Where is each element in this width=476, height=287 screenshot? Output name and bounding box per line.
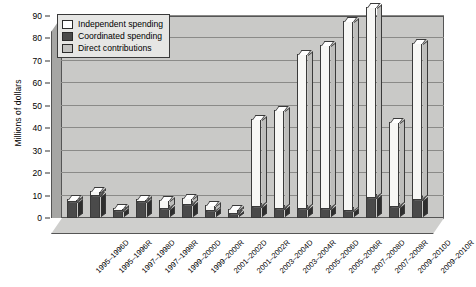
legend-swatch-coordinated [62, 32, 73, 41]
y-tick-label-30: 30 [8, 146, 42, 156]
y-tick-label-60: 60 [8, 78, 42, 88]
bar-segment-coordinated [90, 196, 100, 218]
bar-segment-independent [228, 209, 238, 213]
y-tick-mark-10 [45, 195, 50, 196]
legend: Independent spending Coordinated spendin… [57, 14, 170, 58]
legend-item-independent: Independent spending [62, 18, 163, 30]
bar-segment-independent-side-face [331, 43, 336, 208]
legend-label-independent: Independent spending [78, 19, 163, 29]
bar-segment-independent [67, 199, 77, 202]
bar-segment-coordinated [412, 200, 422, 218]
bar-segment-independent-side-face [354, 18, 359, 210]
bar-segment-coordinated [343, 211, 353, 218]
gridline-70 [61, 60, 444, 61]
bar-segment-independent [343, 21, 353, 212]
bar-group [90, 191, 100, 218]
y-tick-label-0: 0 [8, 213, 42, 223]
bar-group [136, 199, 146, 218]
legend-label-direct: Direct contributions [78, 43, 152, 53]
gridline-50 [61, 105, 444, 106]
bar-segment-independent [113, 208, 123, 211]
y-tick-label-40: 40 [8, 123, 42, 133]
bar-segment-independent [297, 54, 307, 209]
legend-item-direct: Direct contributions [62, 42, 163, 54]
y-tick-mark-20 [45, 173, 50, 174]
y-tick-mark-80 [45, 38, 50, 39]
bar-segment-independent [366, 7, 376, 198]
y-tick-mark-0 [45, 218, 50, 219]
bar-group [228, 209, 238, 218]
y-tick-mark-90 [45, 16, 50, 17]
bar-segment-independent [205, 205, 215, 212]
bar-segment-coordinated-side-face [101, 193, 106, 217]
bar-group [274, 110, 284, 218]
y-tick-label-50: 50 [8, 101, 42, 111]
bar-segment-independent [136, 199, 146, 202]
bar-segment-independent-side-face [377, 4, 382, 196]
bar-segment-independent [90, 191, 100, 195]
bar-segment-coordinated [136, 202, 146, 218]
y-tick-label-70: 70 [8, 56, 42, 66]
gridline-60 [61, 82, 444, 83]
bar-segment-coordinated [274, 209, 284, 218]
y-tick-mark-40 [45, 128, 50, 129]
bar-segment-independent-side-face [423, 40, 428, 199]
bar-segment-coordinated [320, 209, 330, 218]
bar-segment-coordinated-side-face [377, 195, 382, 217]
bar-segment-coordinated [228, 214, 238, 218]
bar-group [159, 200, 169, 218]
bar-group [389, 122, 399, 219]
bar-group [205, 205, 215, 218]
bar-group [67, 199, 77, 218]
bar-segment-coordinated [159, 209, 169, 218]
bar-segment-coordinated [205, 211, 215, 218]
bar-segment-independent [320, 45, 330, 209]
bar-group [412, 43, 422, 218]
bar-group [343, 21, 353, 219]
bar-segment-coordinated [389, 207, 399, 218]
bar-segment-coordinated [251, 207, 261, 218]
bar-group [113, 208, 123, 218]
bar-segment-coordinated [113, 211, 123, 218]
bar-segment-coordinated [67, 202, 77, 218]
bar-segment-independent-side-face [400, 119, 405, 206]
y-tick-label-10: 10 [8, 191, 42, 201]
bar-segment-independent [159, 200, 169, 209]
bar-group [320, 45, 330, 218]
bar-segment-independent [251, 119, 261, 207]
bar-group [182, 198, 192, 218]
y-tick-mark-70 [45, 60, 50, 61]
bar-segment-independent-side-face [308, 52, 313, 208]
bar-segment-independent [182, 198, 192, 205]
bar-segment-independent [389, 122, 399, 207]
legend-swatch-direct [62, 44, 73, 53]
legend-label-coordinated: Coordinated spending [78, 31, 162, 41]
bar-segment-coordinated [366, 198, 376, 218]
bar-group [297, 54, 307, 218]
legend-swatch-independent [62, 20, 73, 29]
bar-segment-independent-side-face [285, 108, 290, 208]
bar-segment-independent [412, 43, 422, 200]
bar-group [366, 7, 376, 218]
y-tick-mark-30 [45, 150, 50, 151]
bar-segment-independent [274, 110, 284, 209]
y-tick-label-20: 20 [8, 168, 42, 178]
bar-segment-coordinated [297, 209, 307, 218]
y-tick-label-80: 80 [8, 33, 42, 43]
legend-item-coordinated: Coordinated spending [62, 30, 163, 42]
y-tick-mark-50 [45, 105, 50, 106]
bar-group [251, 119, 261, 218]
bar-segment-independent-side-face [262, 117, 267, 206]
y-tick-label-90: 90 [8, 11, 42, 21]
y-tick-mark-60 [45, 83, 50, 84]
bar-segment-coordinated [182, 205, 192, 218]
